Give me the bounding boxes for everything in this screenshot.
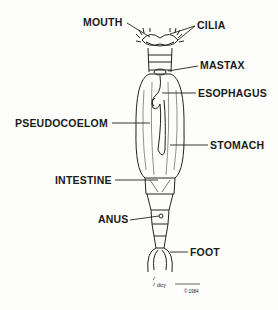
label-intestine: INTESTINE [55, 175, 112, 186]
mastax-leader [168, 66, 198, 71]
cilia-leader-2 [178, 26, 195, 40]
diagram-canvas: dicy © 1984 MOUTH CILIA MASTAX ESOPHAGUS… [0, 0, 278, 310]
label-stomach: STOMACH [210, 140, 264, 151]
cilia-leader-1 [170, 26, 195, 34]
anus-leader [130, 216, 159, 220]
label-anus: ANUS [98, 214, 129, 225]
signature-text: dicy [157, 282, 166, 288]
label-cilia: CILIA [197, 20, 225, 31]
label-foot: FOOT [190, 247, 220, 258]
corona-shape [142, 34, 178, 45]
label-esophagus: ESOPHAGUS [198, 88, 267, 99]
mouth-leader [127, 23, 150, 37]
rotifer-illustration: dicy © 1984 [0, 0, 278, 310]
label-mastax: MASTAX [200, 60, 245, 71]
label-pseudocoelom: PSEUDOCOELOM [15, 118, 108, 129]
label-mouth: MOUTH [83, 17, 123, 28]
copyright-text: © 1984 [184, 288, 199, 294]
